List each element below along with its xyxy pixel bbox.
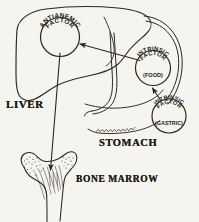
node-intrinsic-factor-food[interactable]: INTRINSIC FACTOR (FOOD): [136, 45, 171, 85]
factor-nodes-layer: ANTIANEMIC FACTOR INTRINSIC FACTOR (FOOD…: [0, 0, 199, 222]
diagram-canvas: ANTIANEMIC FACTOR INTRINSIC FACTOR (FOOD…: [0, 0, 199, 222]
intrinsic-factor-gastric-sublabel: (GASTRIC): [155, 120, 183, 126]
organ-label-bone-marrow: BONE MARROW: [76, 175, 158, 185]
organ-label-liver: LIVER: [6, 99, 44, 110]
node-intrinsic-factor-gastric[interactable]: INTRINSIC FACTOR (GASTRIC): [152, 94, 186, 133]
node-antianemic-factor[interactable]: ANTIANEMIC FACTOR: [38, 11, 83, 56]
organ-label-stomach: STOMACH: [99, 138, 157, 149]
intrinsic-factor-food-sublabel: (FOOD): [143, 72, 163, 78]
